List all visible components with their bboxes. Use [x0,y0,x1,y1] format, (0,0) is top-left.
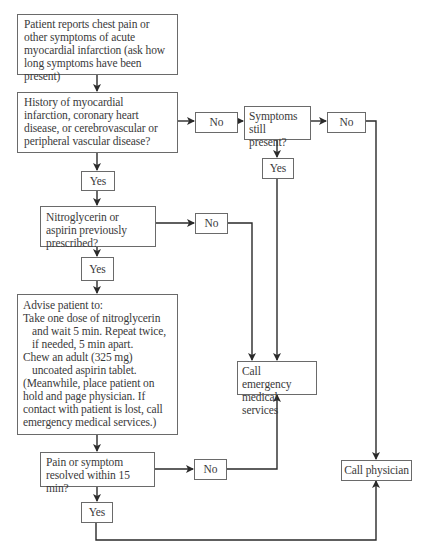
resolved-no-label: No [204,463,218,475]
call-physician-box: Call physician [341,460,412,481]
symptoms-yes-box: Yes [262,158,294,179]
resolved-yes-box: Yes [81,502,113,523]
prescribed-yes-box: Yes [81,257,114,281]
start-box: Patient reports chest pain or other symp… [17,14,178,75]
history-question-box: History of myocardial infarction, corona… [17,92,178,153]
history-yes-label: Yes [90,175,106,187]
advise-box: Advise patient to: Take one dose of nitr… [17,294,178,435]
history-no-box: No [195,112,238,133]
prescribed-question-box: Nitroglycerin or aspirin previously pres… [40,206,156,247]
history-no-label: No [210,116,224,128]
symptoms-yes-label: Yes [270,162,286,174]
prescribed-yes-label: Yes [89,263,105,275]
start-text: Patient reports chest pain or other symp… [24,18,165,82]
symptoms-no-label: No [340,116,354,128]
history-yes-box: Yes [81,171,115,191]
prescribed-question-text: Nitroglycerin or aspirin previously pres… [46,211,127,249]
prescribed-no-box: No [195,213,228,234]
advise-step-nitroglycerin: Take one dose of nitroglycerin and wait … [23,312,172,351]
symptoms-present-box: Symptoms still present? [244,106,311,140]
advise-step-aspirin: Chew an adult (325 mg) uncoated aspirin … [23,351,172,377]
prescribed-no-label: No [205,217,219,229]
call-physician-text: Call physician [344,464,409,476]
resolved-no-box: No [194,459,227,480]
advise-title: Advise patient to: [23,299,172,312]
history-question-text: History of myocardial infarction, corona… [24,96,158,147]
symptoms-no-box: No [327,112,366,133]
call-ems-box: Call emergency medical services [237,361,317,395]
resolved-yes-label: Yes [89,506,105,518]
advise-note: (Meanwhile, place patient on hold and pa… [23,377,172,429]
resolved-question-box: Pain or symptom resolved within 15 min? [40,452,155,487]
